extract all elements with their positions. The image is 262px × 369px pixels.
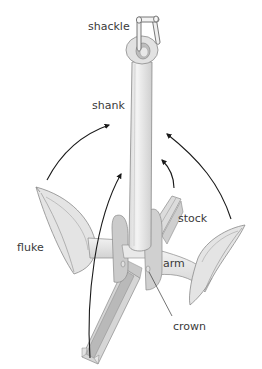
- anchor-diagram: shackle shank stock fluke arm crown: [0, 0, 262, 369]
- shank: [129, 62, 152, 251]
- left-fluke: [36, 187, 96, 274]
- label-arm: arm: [163, 257, 185, 270]
- label-shank: shank: [92, 99, 125, 112]
- label-crown: crown: [173, 320, 206, 333]
- label-fluke: fluke: [17, 241, 44, 254]
- label-stock: stock: [178, 212, 208, 225]
- arrow-right-inner: [162, 160, 174, 188]
- shank-eye: [126, 36, 158, 64]
- right-fluke: [189, 225, 245, 305]
- arrow-left-outer: [47, 125, 109, 180]
- label-shackle: shackle: [88, 20, 130, 33]
